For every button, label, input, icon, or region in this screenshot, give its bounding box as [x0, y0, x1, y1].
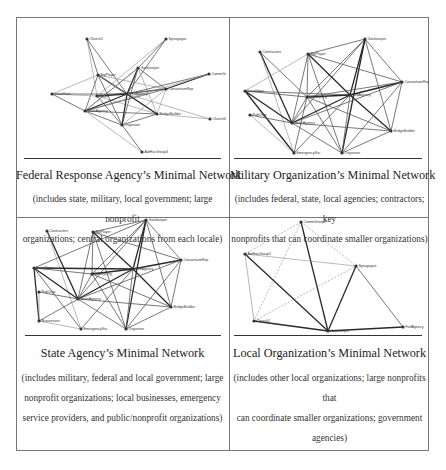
network-node: BigPlayer [91, 230, 111, 234]
panel-rule [25, 335, 221, 336]
network-edge [87, 39, 127, 94]
node-dot-icon [400, 80, 403, 83]
network-graph-state: GatekeeperContractorsBigPlayerConsortium… [20, 218, 226, 336]
node-dot-icon [305, 95, 308, 98]
node-label: MilitaryOrg [309, 95, 326, 99]
node-dot-icon [45, 229, 48, 232]
network-svg: GatekeeperContractorsBigPlayerConsortium… [230, 17, 429, 157]
node-label: Synagogue [358, 264, 376, 268]
node-label: PubOrgs [252, 113, 266, 117]
node-label: Gatekeeper [330, 329, 350, 333]
network-node: Mayor [95, 94, 110, 98]
network-node: MilitaryOrg [90, 272, 111, 276]
network-node: AidHocGroup3 [140, 150, 168, 154]
node-dot-icon [248, 113, 251, 116]
node-label: MilitaryOrg [94, 272, 111, 276]
description-line: agencies) [230, 428, 429, 448]
network-node: Organizer [340, 151, 361, 155]
network-edge [138, 39, 166, 68]
description-line: can coordinate smaller organizations; go… [230, 408, 429, 428]
node-label: PubOrgs [41, 290, 55, 294]
network-node: PubOrgs [248, 113, 266, 117]
node-dot-icon [76, 297, 79, 300]
node-label: BigPlayer [100, 73, 116, 77]
node-label: BridgeBuilder [393, 129, 415, 133]
node-label: BigPlayer [95, 230, 111, 234]
node-label: Contractors [49, 229, 68, 233]
node-label: Organizer [128, 327, 145, 331]
node-label: Church2 [256, 319, 270, 323]
network-edge [292, 123, 342, 153]
node-dot-icon [326, 329, 329, 332]
network-edge [328, 266, 356, 331]
node-dot-icon [179, 258, 182, 261]
network-node: LocalGovt [243, 89, 263, 93]
network-node: AidHocGroup2 [243, 252, 271, 256]
node-label: BridgeBuilder [159, 112, 181, 116]
network-graph-local: CommGroup2AidHocGroup2SynagogueChurch2Ga… [230, 218, 429, 336]
network-node: Synagogue [354, 264, 376, 268]
network-edge [301, 222, 356, 266]
network-node: ConsortiumRep [179, 258, 208, 262]
network-edge [85, 111, 142, 152]
node-label: LocalGovt [247, 89, 263, 93]
node-label: Gatekeeper [367, 37, 387, 41]
network-node: FedAgency [401, 325, 423, 329]
node-dot-icon [169, 305, 172, 308]
node-label: Church1 [89, 37, 103, 41]
panel-state: GatekeeperContractorsBigPlayerConsortium… [16, 218, 229, 451]
node-label: ConsortiumRep [404, 80, 429, 84]
network-node: EmergencySvc [79, 327, 107, 331]
node-dot-icon [140, 150, 143, 153]
network-edge [34, 268, 39, 321]
node-dot-icon [292, 151, 295, 154]
network-graph-military: GatekeeperContractorsBigPlayerConsortium… [230, 17, 429, 157]
node-label: LocalGovt [36, 266, 52, 270]
node-label: BridgeBuilder [173, 305, 195, 309]
network-node: BridgeBuilder [155, 112, 181, 116]
network-svg: GatekeeperContractorsBigPlayerConsortium… [20, 218, 226, 336]
network-edge [350, 95, 391, 131]
network-edge [260, 52, 294, 153]
network-edge [356, 266, 403, 327]
node-dot-icon [37, 319, 40, 322]
node-dot-icon [389, 129, 392, 132]
network-node: CommGroup4 [207, 72, 226, 76]
panel-title: State Agency’s Minimal Network [16, 346, 229, 361]
network-svg: Church1SynagogueGatekeeperCommGroup4BigP… [20, 17, 226, 157]
node-dot-icon [131, 267, 134, 270]
node-dot-icon [32, 266, 35, 269]
node-dot-icon [208, 117, 211, 120]
edges [245, 222, 403, 331]
network-node: ConsortiumRep [164, 87, 193, 91]
node-dot-icon [258, 50, 261, 53]
panel-title: Military Organization’s Minimal Network [230, 168, 429, 183]
network-node: LocalGovt [50, 92, 70, 96]
node-label: Organizer [124, 123, 141, 127]
node-dot-icon [125, 92, 128, 95]
node-dot-icon [155, 112, 158, 115]
network-node: CommGroup2 [299, 220, 326, 224]
node-dot-icon [136, 66, 139, 69]
node-label: Gatekeeper [140, 66, 160, 70]
node-dot-icon [90, 272, 93, 275]
node-label: StateAgency [294, 121, 315, 125]
network-node: FedAgency [348, 93, 370, 97]
node-dot-icon [299, 220, 302, 223]
panel-description: (includes other local organizations; lar… [230, 368, 429, 448]
node-label: Contractors [262, 50, 281, 54]
node-label: StateAgency [80, 297, 101, 301]
node-label: StateAgency [87, 109, 108, 113]
node-dot-icon [85, 37, 88, 40]
network-node: FedAgency [131, 267, 153, 271]
node-label: EmergencySvc [83, 327, 107, 331]
description-line: nonprofit organizations; local businesse… [16, 388, 229, 408]
node-label: Church6 [212, 117, 226, 121]
node-dot-icon [91, 230, 94, 233]
network-node: Contractors [258, 50, 281, 54]
description-line: (includes military, federal and local go… [16, 368, 229, 388]
network-edge [78, 232, 93, 299]
network-node: Gatekeeper [144, 218, 168, 222]
network-edge [342, 131, 391, 153]
network-edge [127, 94, 157, 114]
